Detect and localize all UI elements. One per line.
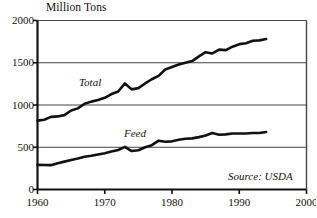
series-label-total: Total xyxy=(79,76,101,88)
x-tick-label-2000: 2000 xyxy=(287,197,317,208)
x-tick-label-1960: 1960 xyxy=(18,197,58,208)
source-annotation: Source: USDA xyxy=(228,170,293,182)
x-tick-label-1990: 1990 xyxy=(219,197,259,208)
x-tick-label-1980: 1980 xyxy=(152,197,192,208)
x-tick-label-1970: 1970 xyxy=(85,197,125,208)
x-axis-tick-labels: 19601970198019902000 xyxy=(0,0,316,218)
series-label-feed: Feed xyxy=(124,127,146,139)
chart-container: Million Tons 0500100015002000 1960197019… xyxy=(0,0,316,218)
